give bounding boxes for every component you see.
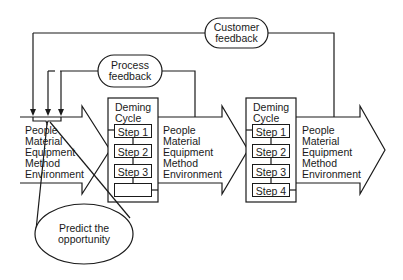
stage1-step-4-blank bbox=[114, 183, 152, 197]
process-feedback-line bbox=[162, 71, 195, 117]
stage2-resources-list: People Material Equipment Method Environ… bbox=[302, 125, 361, 180]
deming-title-line2: Cycle bbox=[253, 113, 289, 124]
process-feedback-line2: feedback bbox=[98, 71, 162, 82]
stage1-step-1: Step 1 bbox=[114, 124, 152, 138]
predict-opportunity-label: Predict the opportunity bbox=[35, 223, 133, 245]
customer-feedback-line2: feedback bbox=[205, 33, 268, 44]
process-feedback-label: Process feedback bbox=[98, 60, 162, 82]
deming-title-2: Deming Cycle bbox=[253, 102, 289, 124]
resource-item: Environment bbox=[163, 169, 222, 180]
arrowhead-customer bbox=[30, 109, 36, 116]
arrowhead-process-2 bbox=[58, 109, 64, 116]
stage2-step-2: Step 2 bbox=[252, 144, 290, 158]
customer-feedback-label: Customer feedback bbox=[205, 22, 268, 44]
resource-item: Environment bbox=[302, 169, 361, 180]
stage2-step-1: Step 1 bbox=[252, 124, 290, 138]
stage2-step-4: Step 4 bbox=[252, 183, 290, 197]
brace bbox=[33, 117, 61, 124]
stage1-step-3: Step 3 bbox=[114, 164, 152, 178]
stage2-step-3: Step 3 bbox=[252, 164, 290, 178]
stage1-step-2: Step 2 bbox=[114, 144, 152, 158]
callout-line2: opportunity bbox=[35, 234, 133, 245]
input-resources-list: People Material Equipment Method Environ… bbox=[25, 125, 84, 180]
resource-item: Environment bbox=[25, 169, 84, 180]
deming-title-line2: Cycle bbox=[115, 113, 151, 124]
stage1-resources-list: People Material Equipment Method Environ… bbox=[163, 125, 222, 180]
deming-title-1: Deming Cycle bbox=[115, 102, 151, 124]
arrowhead-process-1 bbox=[45, 109, 51, 116]
